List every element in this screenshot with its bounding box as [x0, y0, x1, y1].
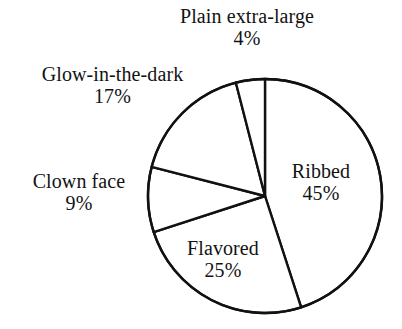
slice-label-name: Plain extra-large [173, 5, 321, 27]
slice-label-percent: 4% [173, 27, 321, 49]
pie-chart-figure: Plain extra-large 4% Glow-in-the-dark 17… [0, 0, 402, 329]
slice-label-glow-in-the-dark: Glow-in-the-dark 17% [20, 63, 205, 108]
slice-label-percent: 17% [20, 85, 205, 107]
slice-label-flavored: Flavored 25% [172, 237, 274, 282]
slice-label-clown-face: Clown face 9% [14, 170, 144, 215]
slice-label-percent: 25% [172, 259, 274, 281]
slice-label-name: Glow-in-the-dark [20, 63, 205, 85]
slice-label-percent: 9% [14, 192, 144, 214]
slice-label-ribbed: Ribbed 45% [277, 160, 365, 205]
slice-label-name: Clown face [14, 170, 144, 192]
slice-label-name: Ribbed [277, 160, 365, 182]
slice-label-percent: 45% [277, 182, 365, 204]
slice-label-name: Flavored [172, 237, 274, 259]
slice-label-plain-extra-large: Plain extra-large 4% [173, 5, 321, 50]
